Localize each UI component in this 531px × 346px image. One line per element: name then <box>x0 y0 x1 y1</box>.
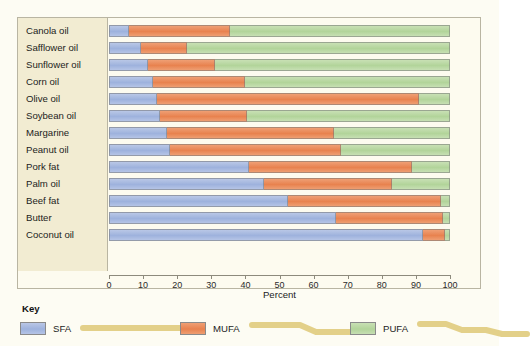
bar-segment-mufa <box>129 25 230 37</box>
bar-segment-sfa <box>109 212 336 224</box>
bar-segment-sfa <box>109 59 148 71</box>
bar-segment-sfa <box>109 144 170 156</box>
bar-rows: Canola oilSafflower oilSunflower oilCorn… <box>18 22 480 243</box>
bar-segment-pufa <box>412 161 450 173</box>
stacked-bar <box>109 59 450 71</box>
bar-segment-sfa <box>109 93 157 105</box>
bar-segment-mufa <box>141 42 187 54</box>
bar-row: Palm oil <box>18 175 480 192</box>
bar-segment-sfa <box>109 195 288 207</box>
bar-segment-sfa <box>109 42 141 54</box>
legend-item-pufa[interactable]: PUFA <box>350 318 531 338</box>
bar-segment-mufa <box>264 178 392 190</box>
stacked-bar <box>109 42 450 54</box>
stacked-bar <box>109 127 450 139</box>
legend-label: PUFA <box>383 323 408 334</box>
legend-item-sfa[interactable]: SFA <box>20 318 194 338</box>
bar-segment-sfa <box>109 127 167 139</box>
legend-title: Key <box>22 303 485 314</box>
x-tick <box>450 275 451 279</box>
bar-segment-sfa <box>109 178 264 190</box>
bar-row: Butter <box>18 209 480 226</box>
bar-segment-pufa <box>341 144 450 156</box>
bar-segment-pufa <box>187 42 450 54</box>
bar-segment-sfa <box>109 161 249 173</box>
bar-row: Soybean oil <box>18 107 480 124</box>
bar-row: Peanut oil <box>18 141 480 158</box>
bar-row-label: Canola oil <box>18 22 104 39</box>
bar-segment-sfa <box>109 110 160 122</box>
bar-segment-pufa <box>419 93 450 105</box>
bar-row: Coconut oil <box>18 226 480 243</box>
x-tick <box>177 275 178 279</box>
bar-row: Corn oil <box>18 73 480 90</box>
stacked-bar <box>109 161 450 173</box>
x-tick <box>416 275 417 279</box>
bar-row-label: Soybean oil <box>18 107 104 124</box>
bar-segment-pufa <box>443 212 450 224</box>
bar-segment-pufa <box>215 59 450 71</box>
stacked-bar <box>109 93 450 105</box>
bar-segment-mufa <box>153 76 245 88</box>
bar-segment-pufa <box>392 178 450 190</box>
stacked-bar <box>109 229 450 241</box>
bar-segment-sfa <box>109 25 129 37</box>
x-tick <box>109 275 110 279</box>
bar-segment-mufa <box>160 110 247 122</box>
legend-swatch-mufa <box>180 322 206 335</box>
stacked-bar <box>109 195 450 207</box>
stacked-bar <box>109 25 450 37</box>
stacked-bar <box>109 212 450 224</box>
bar-segment-mufa <box>167 127 334 139</box>
two-kink-chain-icon <box>416 319 531 337</box>
bar-segment-pufa <box>441 195 450 207</box>
bar-row-label: Beef fat <box>18 192 104 209</box>
x-tick <box>280 275 281 279</box>
legend-label: SFA <box>53 323 71 334</box>
stacked-bar <box>109 76 450 88</box>
bar-row: Pork fat <box>18 158 480 175</box>
bar-segment-sfa <box>109 229 423 241</box>
one-kink-chain-icon <box>248 319 363 337</box>
legend: Key SFAMUFAPUFA <box>20 303 485 343</box>
x-tick <box>314 275 315 279</box>
straight-chain-icon <box>79 319 194 337</box>
bar-row: Margarine <box>18 124 480 141</box>
bar-row: Olive oil <box>18 90 480 107</box>
bar-row-label: Margarine <box>18 124 104 141</box>
legend-item-mufa[interactable]: MUFA <box>180 318 363 338</box>
bar-row: Beef fat <box>18 192 480 209</box>
x-tick <box>382 275 383 279</box>
bar-segment-pufa <box>245 76 450 88</box>
bar-segment-mufa <box>148 59 214 71</box>
bar-segment-pufa <box>247 110 450 122</box>
bar-row-label: Olive oil <box>18 90 104 107</box>
bar-row: Safflower oil <box>18 39 480 56</box>
legend-swatch-pufa <box>350 322 376 335</box>
bar-row-label: Palm oil <box>18 175 104 192</box>
legend-label: MUFA <box>213 323 240 334</box>
bar-segment-mufa <box>423 229 445 241</box>
bar-segment-mufa <box>170 144 341 156</box>
bar-row-label: Corn oil <box>18 73 104 90</box>
bar-segment-mufa <box>249 161 413 173</box>
bar-row-label: Safflower oil <box>18 39 104 56</box>
bar-row: Canola oil <box>18 22 480 39</box>
stacked-bar <box>109 178 450 190</box>
stacked-bar <box>109 144 450 156</box>
bar-row-label: Coconut oil <box>18 226 104 243</box>
bar-segment-pufa <box>334 127 450 139</box>
bar-row-label: Butter <box>18 209 104 226</box>
bar-segment-sfa <box>109 76 153 88</box>
stacked-bar <box>109 110 450 122</box>
legend-entries: SFAMUFAPUFA <box>20 318 485 340</box>
bar-segment-mufa <box>336 212 443 224</box>
bar-row-label: Peanut oil <box>18 141 104 158</box>
bar-segment-pufa <box>230 25 450 37</box>
x-tick <box>143 275 144 279</box>
x-tick <box>348 275 349 279</box>
x-tick <box>211 275 212 279</box>
bar-segment-mufa <box>157 93 420 105</box>
bar-row: Sunflower oil <box>18 56 480 73</box>
